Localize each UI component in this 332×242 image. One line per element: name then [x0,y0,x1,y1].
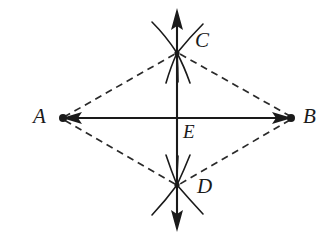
vertex-label-e: E [183,122,195,141]
geometry-figure: A B C D E [0,0,332,242]
segment-CB-dashed [180,54,290,116]
vertex-label-d: D [197,176,212,197]
point-C-dot [174,50,179,55]
point-D-dot [174,182,179,187]
arc-at-C-lower-right-icon [177,53,190,83]
line-CD-vertical-solid [171,8,183,232]
geometry-canvas [0,0,332,242]
point-B-dot [287,114,295,122]
point-A-dot [59,114,67,122]
arc-at-D-upper-left-icon [166,155,177,185]
vertex-label-c: C [195,30,209,51]
segment-DA-dashed [64,120,175,184]
vertex-label-b: B [303,106,316,127]
arc-at-D-lower-left-icon [152,185,177,215]
vertex-label-a: A [33,106,46,127]
arc-at-C-lower-left-icon [166,53,177,83]
segment-AC-dashed [64,54,175,117]
arc-at-D-upper-right-icon [177,155,190,185]
